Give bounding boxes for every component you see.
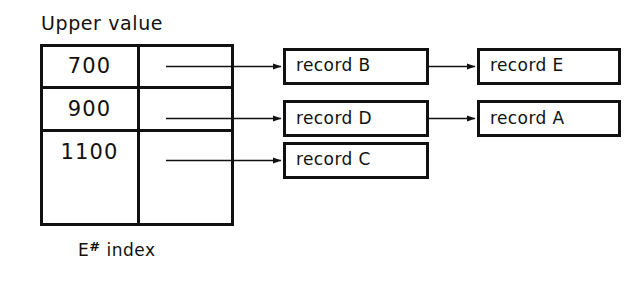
record-label-b: record B bbox=[296, 57, 371, 74]
index-cell-upper-value-2: 1100 bbox=[41, 142, 138, 163]
record-label-a: record A bbox=[490, 110, 565, 127]
record-label-c: record C bbox=[296, 151, 371, 168]
index-record-chain-diagram: Upper value 700 900 1100 record B record… bbox=[0, 0, 643, 281]
hash-icon: # bbox=[89, 239, 100, 254]
caption-suffix: index bbox=[107, 240, 156, 260]
index-cell-upper-value-1: 900 bbox=[41, 99, 138, 120]
chain-arrows bbox=[428, 67, 475, 119]
caption-prefix: E bbox=[78, 240, 89, 260]
record-label-e: record E bbox=[490, 57, 564, 74]
index-cell-upper-value-0: 700 bbox=[41, 56, 138, 77]
record-label-d: record D bbox=[296, 110, 372, 127]
index-caption: E# index bbox=[78, 240, 156, 259]
upper-value-title: Upper value bbox=[41, 14, 163, 33]
